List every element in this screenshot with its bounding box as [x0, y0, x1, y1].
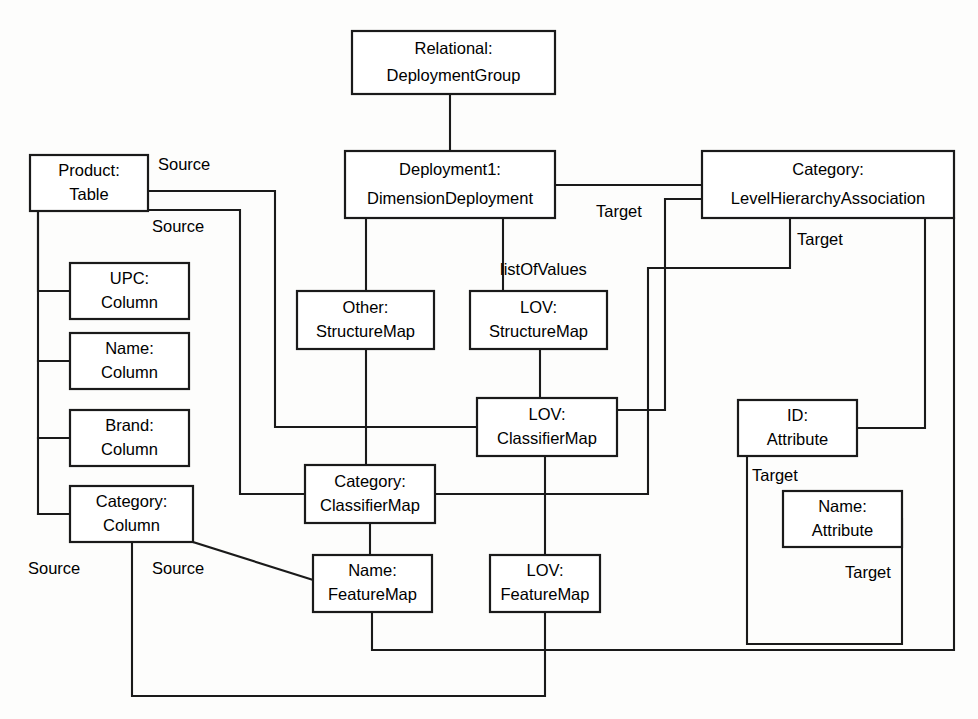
diagram-svg: Relational:DeploymentGroupProduct:TableD… [0, 0, 978, 719]
edge-label-label-target-1: Target [596, 202, 642, 220]
node-label-line1-brand-column: Brand: [105, 416, 154, 434]
node-name-featuremap[interactable]: Name:FeatureMap [313, 555, 432, 612]
node-label-line2-deployment1-dimensiondeployment: DimensionDeployment [367, 189, 533, 207]
node-label-line1-category-classifiermap: Category: [334, 472, 406, 490]
edge-label-label-source-1: Source [158, 155, 210, 173]
node-label-line2-lov-structuremap: StructureMap [489, 322, 588, 340]
node-upc-column[interactable]: UPC:Column [70, 263, 189, 319]
node-label-line1-product-table: Product: [58, 161, 119, 179]
node-label-line1-category-column: Category: [96, 492, 168, 510]
edge-e-namefeature-bottom [372, 218, 954, 650]
object-diagram-canvas: Relational:DeploymentGroupProduct:TableD… [0, 0, 978, 719]
edge-label-label-target-3: Target [752, 466, 798, 484]
edge-e-categorycolumn-namefeature [193, 542, 313, 580]
node-other-structuremap[interactable]: Other:StructureMap [297, 291, 434, 349]
node-lov-classifiermap[interactable]: LOV:ClassifierMap [477, 398, 617, 456]
node-label-line2-category-column: Column [103, 516, 160, 534]
node-label-line1-name-column: Name: [105, 339, 154, 357]
node-lov-structuremap[interactable]: LOV:StructureMap [470, 291, 607, 349]
edge-e-category-id [857, 218, 925, 428]
node-name-attribute[interactable]: Name:Attribute [783, 491, 902, 547]
node-label-line1-name-featuremap: Name: [348, 561, 397, 579]
node-label-line2-name-attribute: Attribute [812, 521, 873, 539]
node-label-line2-lov-featuremap: FeatureMap [501, 585, 590, 603]
node-lov-featuremap[interactable]: LOV:FeatureMap [490, 555, 600, 612]
node-category-classifiermap[interactable]: Category:ClassifierMap [305, 465, 435, 523]
node-label-line1-id-attribute: ID: [787, 406, 808, 424]
node-label-line2-name-column: Column [101, 363, 158, 381]
nodes-layer: Relational:DeploymentGroupProduct:TableD… [30, 31, 954, 612]
node-label-line1-lov-structuremap: LOV: [520, 298, 557, 316]
node-label-line2-other-structuremap: StructureMap [316, 322, 415, 340]
node-relational-deploymentgroup[interactable]: Relational:DeploymentGroup [352, 31, 555, 94]
edge-e-product-upc [38, 211, 70, 291]
node-label-line1-lov-classifiermap: LOV: [529, 405, 566, 423]
node-label-line2-brand-column: Column [101, 440, 158, 458]
node-label-line2-category-levelhierarchyassociation: LevelHierarchyAssociation [731, 189, 925, 207]
node-category-column[interactable]: Category:Column [70, 486, 193, 542]
node-label-line1-deployment1-dimensiondeployment: Deployment1: [399, 160, 501, 178]
edge-label-label-target-4: Target [845, 563, 891, 581]
node-label-line1-relational-deploymentgroup: Relational: [415, 39, 493, 57]
edge-label-label-source-4: Source [152, 559, 204, 577]
edge-label-label-source-3: Source [28, 559, 80, 577]
edge-label-label-source-2: Source [152, 217, 204, 235]
edge-label-label-listofvalues: listOfValues [500, 260, 587, 278]
node-category-levelhierarchyassociation[interactable]: Category:LevelHierarchyAssociation [702, 151, 954, 218]
edge-label-label-target-2: Target [797, 230, 843, 248]
node-label-line2-category-classifiermap: ClassifierMap [320, 496, 420, 514]
node-label-line2-product-table: Table [69, 185, 108, 203]
node-label-line2-upc-column: Column [101, 293, 158, 311]
node-label-line2-relational-deploymentgroup: DeploymentGroup [387, 66, 521, 84]
edge-e-categorytarget-lovclassifier [617, 199, 702, 410]
node-label-line2-id-attribute: Attribute [767, 430, 828, 448]
node-id-attribute[interactable]: ID:Attribute [738, 400, 857, 456]
node-label-line2-lov-classifiermap: ClassifierMap [497, 429, 597, 447]
node-label-line1-lov-featuremap: LOV: [527, 561, 564, 579]
node-label-line2-name-featuremap: FeatureMap [328, 585, 417, 603]
node-label-line1-upc-column: UPC: [110, 269, 149, 287]
node-label-line1-other-structuremap: Other: [343, 298, 389, 316]
node-deployment1-dimensiondeployment[interactable]: Deployment1:DimensionDeployment [345, 151, 555, 218]
node-brand-column[interactable]: Brand:Column [70, 410, 189, 466]
node-label-line1-name-attribute: Name: [818, 497, 867, 515]
node-product-table[interactable]: Product:Table [30, 155, 148, 211]
node-name-column[interactable]: Name:Column [70, 333, 189, 389]
node-label-line1-category-levelhierarchyassociation: Category: [792, 160, 864, 178]
